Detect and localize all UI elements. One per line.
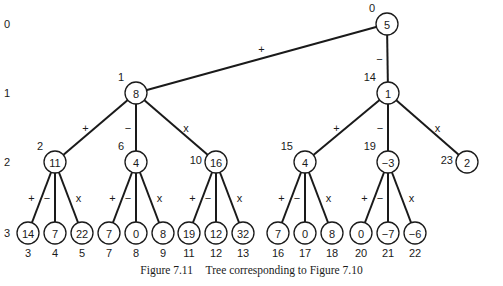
tree-node: 716 bbox=[267, 222, 289, 259]
level-label: 3 bbox=[4, 227, 10, 239]
edge-operator: − bbox=[377, 122, 383, 134]
node-index: 21 bbox=[382, 247, 394, 259]
tree-node: 77 bbox=[98, 222, 120, 259]
figure-caption: Figure 7.11 Tree corresponding to Figure… bbox=[0, 264, 503, 276]
figure-caption-text: Tree corresponding to Figure 7.10 bbox=[206, 264, 363, 276]
edge-operator: + bbox=[28, 192, 34, 204]
tree-node: −622 bbox=[404, 222, 426, 259]
tree-node: 112 bbox=[37, 140, 66, 173]
edge-operator: − bbox=[125, 122, 131, 134]
node-value: 8 bbox=[329, 228, 335, 240]
edge-operator: − bbox=[376, 53, 382, 65]
tree-edge bbox=[136, 93, 216, 162]
edge-operator: + bbox=[278, 192, 284, 204]
node-index: 5 bbox=[79, 247, 85, 259]
node-value: 8 bbox=[160, 228, 166, 240]
figure-number: Figure 7.11 bbox=[140, 264, 193, 276]
node-index: 17 bbox=[299, 247, 311, 259]
node-value: 14 bbox=[22, 228, 34, 240]
node-value: 2 bbox=[464, 157, 470, 169]
edge-operator: x bbox=[237, 192, 243, 204]
node-index: 22 bbox=[409, 247, 421, 259]
node-value: −7 bbox=[382, 228, 395, 240]
node-index: 23 bbox=[441, 154, 453, 166]
node-index: 6 bbox=[118, 140, 124, 152]
tree-node: 74 bbox=[44, 222, 66, 259]
node-value: 0 bbox=[133, 228, 139, 240]
edge-operator: − bbox=[205, 192, 211, 204]
edge-operator: − bbox=[44, 192, 50, 204]
node-value: 22 bbox=[76, 228, 88, 240]
edge-operator: + bbox=[82, 122, 88, 134]
node-index: 13 bbox=[237, 247, 249, 259]
tree-node: 1911 bbox=[178, 222, 200, 259]
edge-operator: + bbox=[189, 192, 195, 204]
tree-node: 50 bbox=[369, 2, 398, 35]
tree-node: 143 bbox=[17, 222, 39, 259]
edge-operator: x bbox=[326, 192, 332, 204]
tree-node: 225 bbox=[71, 222, 93, 259]
node-index: 14 bbox=[364, 71, 376, 83]
tree-node: 415 bbox=[281, 140, 316, 173]
edge-operator: x bbox=[409, 192, 415, 204]
tree-node: 1212 bbox=[205, 222, 227, 259]
node-index: 15 bbox=[281, 140, 293, 152]
edge-operator: x bbox=[435, 122, 441, 134]
tree-node: 46 bbox=[118, 140, 147, 173]
node-index: 20 bbox=[355, 247, 367, 259]
level-label: 2 bbox=[4, 156, 10, 168]
tree-node: 81 bbox=[118, 71, 147, 104]
node-value: 0 bbox=[302, 228, 308, 240]
node-value: 8 bbox=[133, 88, 139, 100]
node-value: 32 bbox=[237, 228, 249, 240]
node-index: 10 bbox=[190, 154, 202, 166]
tree-node: 1610 bbox=[190, 151, 227, 173]
node-value: 4 bbox=[302, 157, 308, 169]
level-axis-labels: 0123 bbox=[4, 18, 10, 239]
node-index: 8 bbox=[133, 247, 139, 259]
node-index: 0 bbox=[369, 2, 375, 14]
node-index: 7 bbox=[106, 247, 112, 259]
tree-node: −319 bbox=[364, 140, 399, 173]
node-value: 11 bbox=[49, 157, 60, 169]
node-index: 2 bbox=[37, 140, 43, 152]
node-index: 16 bbox=[272, 247, 284, 259]
node-index: 4 bbox=[52, 247, 58, 259]
edge-operator: x bbox=[183, 122, 189, 134]
edge-operator: − bbox=[377, 192, 383, 204]
edge-operator: x bbox=[76, 192, 82, 204]
node-value: 7 bbox=[106, 228, 112, 240]
node-value: 7 bbox=[275, 228, 281, 240]
node-index: 9 bbox=[160, 247, 166, 259]
node-value: 5 bbox=[384, 19, 390, 31]
tree-node: 818 bbox=[321, 222, 343, 259]
node-index: 12 bbox=[210, 247, 222, 259]
edge-operator: x bbox=[157, 192, 163, 204]
node-value: 1 bbox=[385, 88, 391, 100]
tree-node: 3213 bbox=[232, 222, 254, 259]
edge-operator: + bbox=[258, 43, 264, 55]
tree-node: −721 bbox=[377, 222, 399, 259]
node-index: 11 bbox=[183, 247, 194, 259]
tree-edge bbox=[136, 24, 387, 93]
tree-edges bbox=[28, 24, 467, 233]
tree-node: 017 bbox=[294, 222, 316, 259]
tree-node: 020 bbox=[350, 222, 372, 259]
tree-node: 08 bbox=[125, 222, 147, 259]
node-index: 18 bbox=[326, 247, 338, 259]
tree-node: 114 bbox=[364, 71, 399, 104]
node-index: 3 bbox=[25, 247, 31, 259]
tree-node: 89 bbox=[152, 222, 174, 259]
level-label: 1 bbox=[4, 87, 10, 99]
tree-diagram: +++−x−+−xx+−x−++−x−+−xx 0123 50811121437… bbox=[0, 0, 503, 286]
node-value: 0 bbox=[358, 228, 364, 240]
tree-node: 223 bbox=[441, 151, 478, 173]
tree-edge bbox=[388, 93, 467, 162]
node-value: 19 bbox=[183, 228, 195, 240]
edge-operator: + bbox=[109, 192, 115, 204]
edge-operator: + bbox=[361, 192, 367, 204]
node-value: 7 bbox=[52, 228, 58, 240]
node-value: −6 bbox=[409, 228, 422, 240]
node-value: 4 bbox=[133, 157, 139, 169]
node-value: 16 bbox=[210, 157, 222, 169]
